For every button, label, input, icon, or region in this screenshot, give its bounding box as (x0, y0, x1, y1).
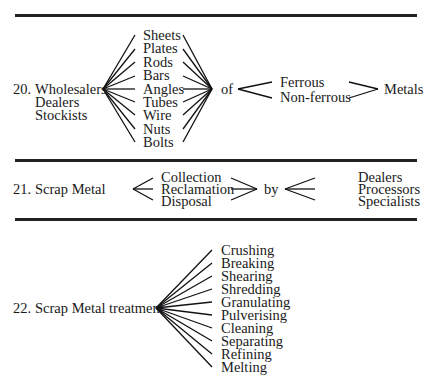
form-item: Bolts (143, 136, 174, 149)
connector-by: by (264, 183, 279, 196)
agent-item: Specialists (358, 195, 420, 208)
subject-scrap-metal-treatment: Scrap Metal treatment (35, 302, 164, 315)
activity-item: Disposal (161, 195, 212, 208)
subject-stockists: Stockists (35, 109, 87, 122)
fan-20-right (183, 35, 212, 142)
fan-20-left (103, 35, 135, 142)
type-ferrous: Ferrous (280, 76, 324, 89)
type-non-ferrous: Non-ferrous (280, 91, 351, 104)
connector-of: of (221, 83, 233, 96)
subject-scrap-metal: Scrap Metal (35, 183, 105, 196)
object-metals: Metals (384, 83, 423, 96)
fan-22 (156, 250, 212, 367)
process-item: Melting (221, 361, 267, 374)
section-number: 20. (13, 83, 31, 96)
section-number: 22. (13, 302, 31, 315)
section-number: 21. (13, 183, 31, 196)
